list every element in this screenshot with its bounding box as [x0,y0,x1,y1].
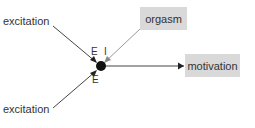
sign-e-top: E [91,46,98,57]
excitation-top-line [53,26,96,62]
excitation-bottom-line [53,71,96,108]
motivation-label: motivation [187,60,237,72]
motivation-box: motivation [185,54,240,77]
orgasm-box: orgasm [140,7,187,30]
excitation-top-label: excitation [3,15,49,27]
excitation-bottom-label: excitation [3,103,49,115]
sign-e-bottom: E [92,74,99,85]
neuron-node [96,61,106,71]
orgasm-label: orgasm [145,13,182,25]
sign-i: I [104,46,107,57]
excitation-top-arrow [90,56,97,63]
motivation-arrow [178,63,184,70]
orgasm-line [105,29,140,62]
